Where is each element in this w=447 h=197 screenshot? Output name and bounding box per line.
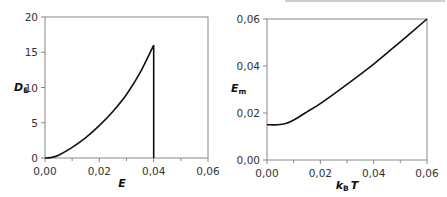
series-line-em — [267, 19, 427, 125]
y-axis-label: Em — [231, 82, 247, 96]
x-tick-label: 0,02 — [88, 165, 111, 177]
x-tick-label: 0,02 — [309, 167, 332, 179]
x-tick-label: 0,00 — [33, 165, 56, 177]
x-axis-label: E — [118, 177, 126, 190]
x-tick-label: 0,00 — [255, 167, 278, 179]
y-tick-label: 0 — [31, 152, 38, 164]
y-tick-label: 0,00 — [237, 154, 260, 166]
x-tick-label: 0,04 — [362, 167, 386, 179]
x-axis-ticks: 0,000,020,040,06 — [33, 158, 220, 177]
plot-frame — [45, 17, 208, 158]
y-tick-label: 20 — [25, 11, 38, 23]
y-tick-label: 0,02 — [237, 107, 260, 119]
y-tick-label: 0,04 — [237, 60, 261, 72]
y-tick-label: 0,06 — [237, 13, 261, 25]
x-tick-label: 0,04 — [142, 165, 166, 177]
x-tick-label: 0,06 — [415, 167, 439, 179]
x-tick-label: 0,06 — [196, 165, 220, 177]
y-tick-label: 15 — [25, 46, 38, 58]
y-tick-label: 5 — [31, 117, 38, 129]
series-line-de — [45, 45, 154, 158]
figure-canvas: 05101520 0,000,020,040,06 DE E 0,000,020… — [0, 0, 447, 197]
chart-em-vs-kbt: 0,000,020,040,06 0,000,020,040,06 Em kBT — [231, 13, 439, 193]
x-axis-label: kBT — [336, 179, 360, 193]
x-axis-ticks: 0,000,020,040,06 — [255, 160, 439, 179]
chart-de-vs-e: 05101520 0,000,020,040,06 DE E — [14, 11, 220, 190]
